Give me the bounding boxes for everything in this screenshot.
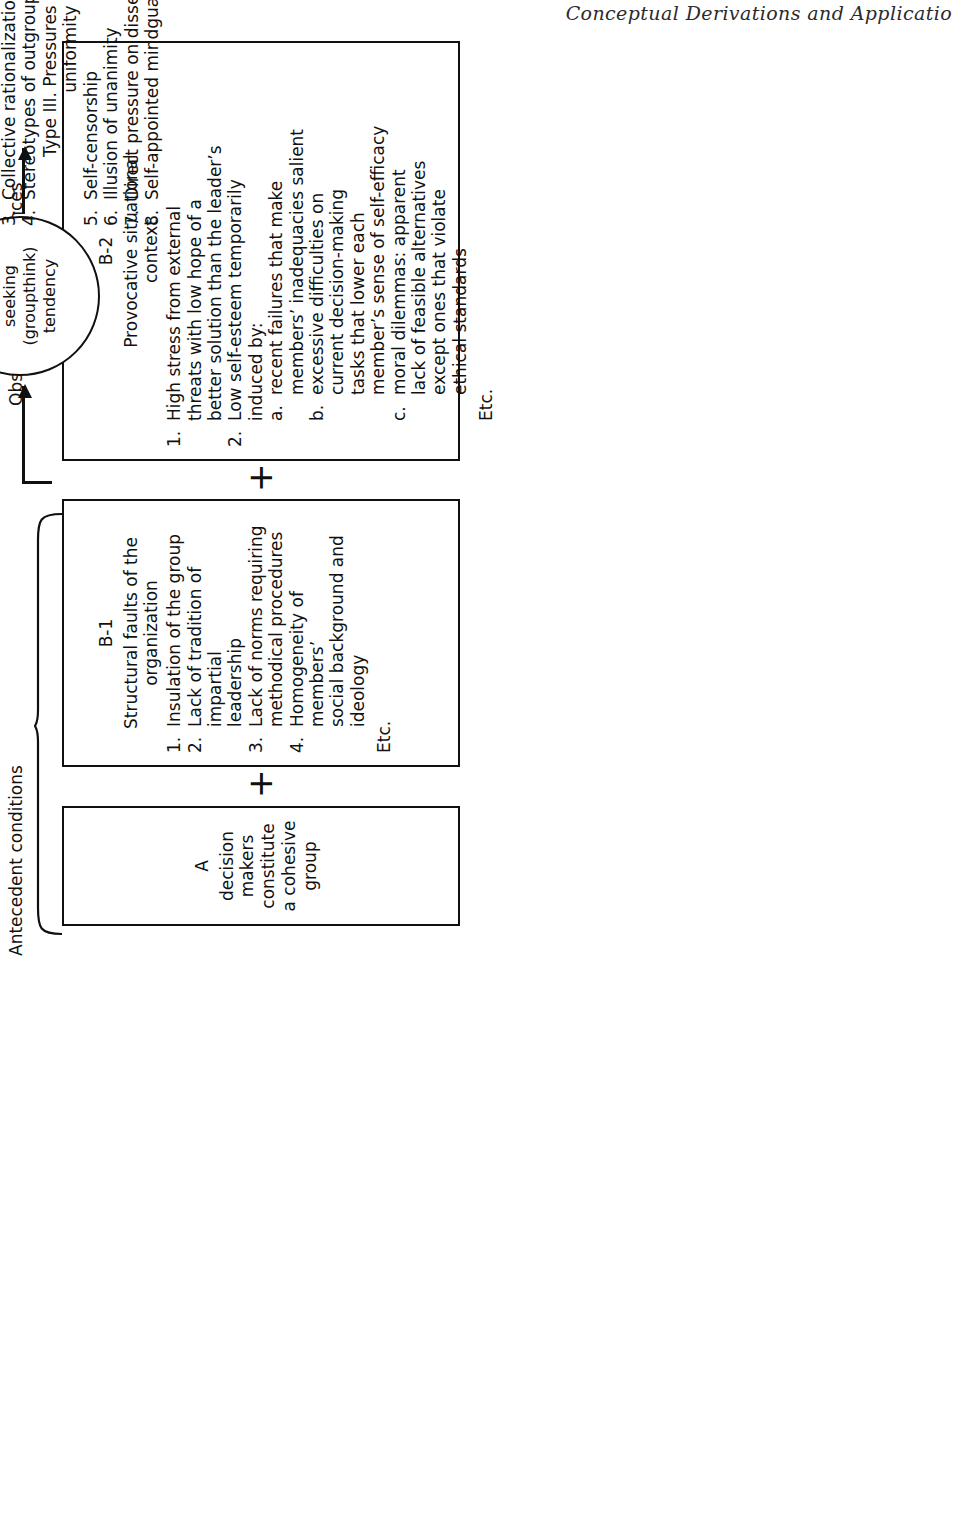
list-item-text: moral dilemmas: apparent lack of feasibl… [389,161,470,395]
list-item-number: a. [266,399,286,421]
box-b2-list-item: 1.High stress from external threats with… [164,55,225,447]
box-b1-list-item: 2.Lack of tradition of impartial leaders… [185,513,246,753]
box-b1-list-item: 4.Homogeneity of members’ social backgro… [287,513,369,753]
box-c-list-item: 7.Direct pressure on dissenters [122,0,142,226]
box-b1-letter: B-1 [96,513,117,753]
list-item-text: recent failures that make members’ inade… [266,129,306,395]
box-a: A decision makers constitute a cohesive … [62,806,460,926]
list-item-text: Direct pressure on dissenters [122,0,142,200]
box-c-list-item: 5.Self-censorship [81,0,101,226]
list-item-number: 8. [142,204,162,226]
box-b2-sub-list-item: b.excessive difficulties on current deci… [307,55,389,421]
list-item-text: excessive difficulties on current decisi… [307,126,388,395]
list-item-number: c. [389,399,409,421]
list-item-number: 7. [122,204,142,226]
list-item-number: 4. [19,204,39,226]
list-item-number: 2. [225,425,245,447]
list-item-text: Insulation of the group [164,534,184,727]
box-b2-list-item: 2.Low self-esteem temporarily induced by… [225,55,266,447]
box-a-letter: A [192,820,213,912]
list-item-number: 2. [185,731,205,753]
box-b1-list-item: 3.Lack of norms requiring methodical pro… [246,513,287,753]
arrow-antecedents-to-circle [22,386,25,484]
brace-stem [24,481,52,484]
box-b2-sub-list-item: a.recent failures that make members’ ina… [266,55,307,421]
box-c-list-item: 8.Self-appointed mindguards [142,0,162,226]
list-item-number: 1. [164,731,184,753]
box-b2-etc: Etc. [476,55,496,421]
box-b2-subitem-list: a.recent failures that make members’ ina… [266,55,470,421]
list-item-text: Self-appointed mindguards [142,0,162,200]
box-b1-title: Structural faults of the organization [121,513,162,753]
box-b1-item-list: 1.Insulation of the group2.Lack of tradi… [164,513,368,753]
box-c-list-item: 4.Stereotypes of outgroups [19,0,39,226]
list-item-text: Illusion of unanimity [101,27,121,200]
plus-sign-2: + [243,464,277,493]
list-item-text: Lack of norms requiring methodical proce… [246,525,286,727]
list-item-text: Homogeneity of members’ social backgroun… [287,535,368,727]
box-c-type3-items: 5.Self-censorship6.Illusion of unanimity… [81,0,163,226]
list-item-number: 3. [246,731,266,753]
list-item-number: 5. [81,204,101,226]
plus-sign-1: + [243,770,277,799]
diagram-canvas: Antecedent conditions Observable consequ… [0,0,966,966]
list-item-number: 3. [0,204,19,226]
box-b2-item-list: 1.High stress from external threats with… [164,55,266,447]
box-c-list-item: 3.Collective rationalizations [0,0,19,226]
box-a-title: decision makers constitute a cohesive gr… [217,820,321,912]
list-item-number: 1. [164,425,184,447]
list-item-text: Self-censorship [81,71,101,200]
box-c-list-item: 6.Illusion of unanimity [101,0,121,226]
list-item-text: High stress from external threats with l… [164,145,225,421]
concurrence-seeking-label: Concurrence- seeking (groupthink) tenden… [0,243,60,350]
box-c-type2-items: 3.Collective rationalizations4.Stereotyp… [0,0,40,226]
list-item-number: 6. [101,204,121,226]
list-item-text: Lack of tradition of impartial leadershi… [185,567,246,727]
list-item-text: Stereotypes of outgroups [19,0,39,200]
list-item-number: b. [307,399,327,421]
list-item-text: Collective rationalizations [0,0,19,200]
list-item-text: Low self-esteem temporarily induced by: [225,179,265,421]
box-b1-list-item: 1.Insulation of the group [164,513,184,753]
box-b1: B-1 Structural faults of the organizatio… [62,499,460,767]
list-item-number: 4. [287,731,307,753]
box-c-type3-heading: Type III. Pressures toward uniformity [40,0,81,226]
antecedent-conditions-label: Antecedent conditions [6,765,26,956]
box-b2-sub-list-item: c.moral dilemmas: apparent lack of feasi… [389,55,471,421]
antecedent-group-brace [34,508,64,938]
box-b1-etc: Etc. [374,513,394,753]
